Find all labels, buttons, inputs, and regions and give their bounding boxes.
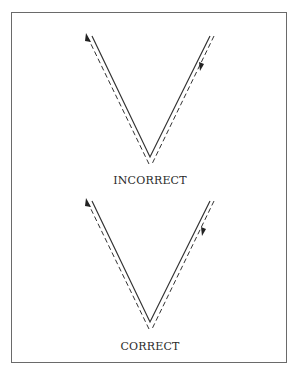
solid-v-line [92,36,210,157]
incorrect-label: INCORRECT [0,174,300,187]
arrow-down-icon [201,227,206,236]
solid-v-line [92,201,210,322]
arrow-up-icon [85,198,91,207]
correct-diagram [85,198,214,329]
dashed-right-line [152,201,214,329]
dashed-left-line [88,38,149,164]
dashed-left-line [88,203,149,329]
incorrect-diagram [85,33,214,164]
arrow-down-icon [199,62,204,71]
v-diagrams [0,0,300,375]
dashed-right-line [152,36,214,164]
correct-label: CORRECT [0,340,300,353]
arrow-up-icon [85,33,91,42]
